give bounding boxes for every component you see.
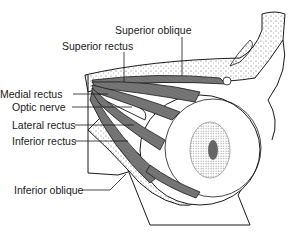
label-medial-rectus: Medial rectus xyxy=(0,88,62,100)
pupil xyxy=(208,140,218,160)
label-lateral-rectus: Lateral rectus xyxy=(12,119,76,131)
label-superior-oblique: Superior oblique xyxy=(115,24,191,36)
label-superior-rectus: Superior rectus xyxy=(62,40,133,52)
eye-muscles-diagram: Superior oblique Superior rectus Medial … xyxy=(0,0,289,242)
label-inferior-rectus: Inferior rectus xyxy=(12,135,76,147)
label-inferior-oblique: Inferior oblique xyxy=(14,184,83,196)
label-optic-nerve: Optic nerve xyxy=(12,101,66,113)
